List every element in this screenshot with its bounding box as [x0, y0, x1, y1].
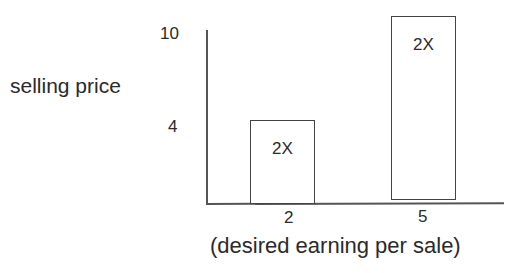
- bar-2: 2X: [250, 120, 315, 204]
- bar-annotation: 2X: [392, 35, 455, 55]
- y-tick-4: 4: [168, 117, 177, 137]
- x-tick-5: 5: [418, 207, 427, 227]
- x-tick-2: 2: [284, 208, 293, 228]
- bar-annotation: 2X: [251, 139, 314, 159]
- x-axis-label: (desired earning per sale): [210, 233, 461, 259]
- y-axis-label: selling price: [10, 74, 121, 98]
- y-tick-10: 10: [160, 24, 179, 44]
- bar-5: 2X: [391, 16, 456, 200]
- y-axis-line: [206, 30, 208, 205]
